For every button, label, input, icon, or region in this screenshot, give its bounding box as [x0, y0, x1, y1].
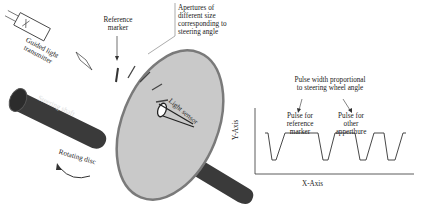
steering-shaft-front — [6, 86, 107, 149]
reference-marker-line-1: Reference — [99, 16, 137, 24]
label-pulse-other: Pulse for other apperthure — [330, 112, 372, 136]
apertures-line-2: different size — [178, 12, 227, 20]
pulse-other-line-1: Pulse for — [330, 112, 372, 120]
pulse-reference-line-3: marker — [280, 128, 320, 136]
reference-marker-line-2: marker — [99, 24, 137, 32]
waveform-title-line-2: to steering wheel angle — [282, 84, 378, 92]
label-apertures: Apertures of different size correspondin… — [178, 4, 227, 36]
rotation-arrow-icon — [60, 168, 90, 178]
apertures-line-1: Apertures of — [178, 4, 227, 12]
light-beam-arrow-icon — [76, 52, 92, 70]
x-axis-label: X-Axis — [302, 180, 323, 188]
pulse-reference-line-2: reference — [280, 120, 320, 128]
pulse-reference-line-1: Pulse for — [280, 112, 320, 120]
label-pulse-reference: Pulse for reference marker — [280, 112, 320, 136]
pulse-other-line-2: other — [330, 120, 372, 128]
apertures-line-4: steering angle — [178, 28, 227, 36]
waveform-title-line-1: Pulse width proportional — [282, 76, 378, 84]
waveform-title: Pulse width proportional to steering whe… — [282, 76, 378, 92]
y-axis-label: Y-Axis — [232, 120, 240, 140]
pulse-waveform — [255, 99, 414, 174]
pulse-other-line-3: apperthure — [330, 128, 372, 136]
label-reference-marker: Reference marker — [99, 16, 137, 32]
apertures-line-3: corresponding to — [178, 20, 227, 28]
